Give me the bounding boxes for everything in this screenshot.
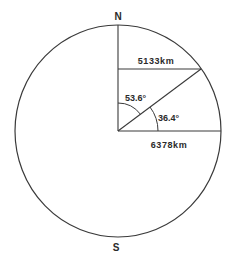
latitude-angle-arc — [150, 107, 158, 131]
radius-distance-label: 6378km — [151, 140, 188, 150]
colatitude-angle-label: 53.6° — [125, 93, 147, 103]
colatitude-angle-arc — [118, 103, 140, 114]
south-pole-label: S — [113, 242, 120, 253]
chord-distance-label: 5133km — [138, 56, 175, 66]
latitude-angle-label: 36.4° — [158, 113, 180, 123]
north-pole-label: N — [114, 11, 121, 22]
earth-latitude-diagram: N S 5133km 6378km 53.6° 36.4° — [0, 0, 235, 261]
